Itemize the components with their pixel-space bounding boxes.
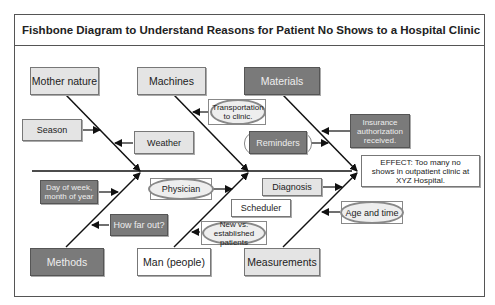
cause-day-of-week: Day of week, month of year	[40, 180, 98, 204]
category-measurements: Measurements	[244, 248, 320, 276]
cause-weather: Weather	[134, 131, 194, 154]
cause-age-and-time: Age and time	[340, 201, 404, 224]
cause-new-vs-established: New vs. established patients	[202, 221, 266, 245]
cause-reminders: Reminders	[249, 131, 307, 154]
category-man-people: Man (people)	[137, 248, 211, 276]
category-materials: Materials	[244, 67, 320, 95]
cause-insurance-authorization: Insurance authorization received.	[350, 114, 410, 148]
cause-how-far-out: How far out?	[110, 214, 168, 236]
category-machines: Machines	[137, 67, 206, 95]
category-methods: Methods	[30, 248, 104, 276]
cause-season: Season	[22, 119, 82, 141]
cause-diagnosis: Diagnosis	[262, 178, 322, 196]
effect-box: EFFECT: Too many no shows in outpatient …	[361, 155, 480, 187]
cause-transportation: Transportation to clinic.	[210, 99, 266, 125]
cause-physician: Physician	[148, 178, 214, 200]
cause-scheduler: Scheduler	[231, 199, 291, 217]
category-mother-nature: Mother nature	[30, 67, 99, 95]
